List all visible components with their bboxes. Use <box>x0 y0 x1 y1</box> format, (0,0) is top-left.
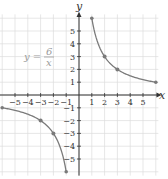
y-tick-label: −4 <box>63 142 75 151</box>
axes <box>0 12 162 176</box>
y-tick-label: 4 <box>70 40 75 49</box>
data-point <box>103 55 107 59</box>
curve <box>2 108 66 172</box>
x-axis-label: x <box>159 89 166 102</box>
curve-endpoint-arrow-icon <box>0 106 4 110</box>
curve-endpoint-arrow-icon <box>64 170 68 174</box>
x-tick-label: 1 <box>89 98 94 107</box>
x-tick-label: −3 <box>35 98 47 107</box>
equation-numerator: 6 <box>46 46 53 57</box>
x-tick-label: 3 <box>115 98 120 107</box>
curve-endpoint-arrow-icon <box>90 16 94 20</box>
curve <box>92 18 156 82</box>
y-tick-label: −3 <box>63 129 75 138</box>
x-tick-label: −2 <box>48 98 60 107</box>
y-tick-label: 5 <box>70 27 75 36</box>
data-point <box>51 131 55 135</box>
x-tick-label: −4 <box>22 98 34 107</box>
y-tick-label: −2 <box>63 117 75 126</box>
x-tick-label: −5 <box>9 98 21 107</box>
y-tick-label: −1 <box>63 104 75 113</box>
equation-lhs: y = <box>23 51 41 62</box>
y-tick-label: 3 <box>70 53 75 62</box>
x-tick-label: 5 <box>140 98 145 107</box>
graph-of-6-over-x: −5−4−3−2−112345−5−4−3−2−112345 x y y = 6… <box>0 0 168 179</box>
curve-endpoint-arrow-icon <box>154 80 158 84</box>
data-point <box>115 67 119 71</box>
y-tick-label: 2 <box>70 65 75 74</box>
data-point <box>39 119 43 123</box>
y-tick-label: 1 <box>70 78 75 87</box>
equation-denominator: x <box>46 57 52 68</box>
x-tick-label: 2 <box>102 98 107 107</box>
y-axis-label: y <box>75 0 83 13</box>
x-tick-label: 4 <box>128 98 133 107</box>
